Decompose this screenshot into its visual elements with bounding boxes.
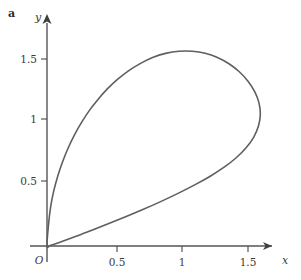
y-axis-label: y (34, 11, 42, 24)
x-tick-label-1.5: 1.5 (240, 256, 257, 268)
x-tick-marks (117, 246, 248, 252)
y-tick-label-0.5: 0.5 (20, 175, 37, 187)
y-axis-arrowhead (43, 14, 52, 24)
axes-group (30, 14, 272, 262)
plot-canvas: 0.5 1 1.5 0.5 1 1.5 O x y (0, 0, 301, 280)
x-tick-labels: 0.5 1 1.5 (109, 256, 257, 268)
x-axis-label: x (282, 254, 289, 267)
loop-curve (47, 51, 260, 248)
y-tick-label-1.5: 1.5 (20, 53, 37, 65)
x-tick-label-0.5: 0.5 (109, 256, 126, 268)
figure-container: a 0.5 1 1.5 0.5 1 1.5 O (0, 0, 301, 280)
y-tick-label-1: 1 (30, 113, 37, 125)
origin-label: O (35, 254, 44, 266)
y-tick-marks (41, 59, 47, 181)
y-tick-labels: 0.5 1 1.5 (20, 53, 37, 187)
x-tick-label-1: 1 (179, 256, 186, 268)
